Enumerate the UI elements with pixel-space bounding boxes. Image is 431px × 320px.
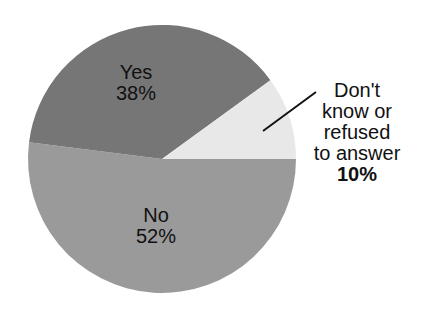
label-dk-line4: to answer	[302, 143, 412, 164]
label-yes-pct: 38%	[106, 83, 166, 104]
label-yes: Yes 38%	[106, 62, 166, 104]
label-dk-line1: Don't	[302, 80, 412, 101]
label-yes-name: Yes	[106, 62, 166, 83]
label-dk-pct: 10%	[302, 164, 412, 185]
label-dont-know: Don't know or refused to answer 10%	[302, 80, 412, 185]
label-no: No 52%	[126, 205, 186, 247]
label-no-pct: 52%	[126, 226, 186, 247]
label-dk-line2: know or	[302, 101, 412, 122]
label-no-name: No	[126, 205, 186, 226]
label-dk-line3: refused	[302, 122, 412, 143]
